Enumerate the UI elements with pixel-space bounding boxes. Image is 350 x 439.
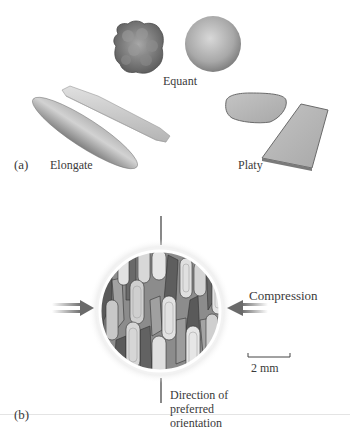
orientation-line-3: orientation — [170, 416, 228, 430]
platy-rounded-plate — [226, 93, 287, 123]
label-orientation: Direction of preferred orientation — [170, 388, 228, 430]
equant-sphere — [185, 16, 241, 72]
scale-bar — [248, 353, 290, 357]
equant-lumpy-grain — [114, 21, 163, 73]
diagram-canvas — [0, 0, 350, 439]
orientation-line-2: preferred — [170, 402, 228, 416]
compression-arrow-left — [52, 300, 94, 316]
orientation-line-1: Direction of — [170, 388, 228, 402]
label-platy: Platy — [238, 158, 263, 173]
label-equant: Equant — [163, 74, 197, 89]
label-elongate: Elongate — [50, 158, 93, 173]
label-scale: 2 mm — [251, 361, 279, 376]
panel-a-label: (a) — [14, 157, 28, 173]
label-compression: Compression — [249, 288, 318, 304]
panel-b-label: (b) — [14, 407, 29, 423]
